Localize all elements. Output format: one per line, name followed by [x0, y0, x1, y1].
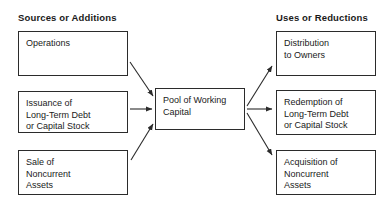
- arrow-sale-to-pool: [131, 124, 153, 160]
- node-issuance: Issuance of Long-Term Debt or Capital St…: [18, 91, 128, 133]
- node-acquisition: Acquisition of Noncurrent Assets: [276, 150, 376, 195]
- node-redemption-label: Redemption of Long-Term Debt or Capital …: [284, 97, 368, 132]
- column-header-sources: Sources or Additions: [18, 12, 117, 23]
- node-operations-label: Operations: [26, 38, 120, 50]
- node-pool-of-working-capital: Pool of Working Capital: [155, 88, 245, 130]
- node-redemption: Redemption of Long-Term Debt or Capital …: [276, 90, 376, 135]
- node-sale-label: Sale of Noncurrent Assets: [26, 157, 120, 192]
- node-distribution-label: Distribution to Owners: [284, 38, 368, 61]
- node-pool-label: Pool of Working Capital: [163, 95, 237, 118]
- node-operations: Operations: [18, 31, 128, 76]
- node-issuance-label: Issuance of Long-Term Debt or Capital St…: [26, 98, 120, 133]
- node-sale: Sale of Noncurrent Assets: [18, 150, 128, 195]
- arrow-operations-to-pool: [130, 62, 153, 96]
- arrow-pool-to-distribution: [247, 66, 272, 106]
- node-distribution: Distribution to Owners: [276, 31, 376, 76]
- working-capital-flow-diagram: Sources or Additions Uses or Reductions …: [0, 0, 391, 209]
- arrow-pool-to-acquisition: [247, 113, 272, 155]
- column-header-uses: Uses or Reductions: [276, 12, 368, 23]
- node-acquisition-label: Acquisition of Noncurrent Assets: [284, 157, 368, 192]
